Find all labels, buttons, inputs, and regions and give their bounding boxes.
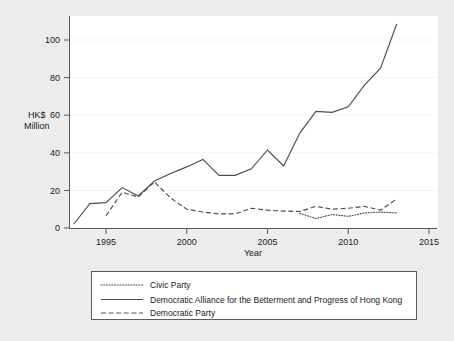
x-tick-label: 2005 [257,237,277,247]
y-axis-title-line2: Million [24,121,50,131]
legend-label-1: Democratic Alliance for the Betterment a… [150,295,403,305]
x-tick-label: 1995 [96,237,116,247]
y-axis-title-line1: HK$ [28,110,46,120]
y-tick-label: 100 [45,35,60,45]
line-chart: 020406080100 19952000200520102015 HK$ Mi… [0,0,454,341]
x-tick-label: 2000 [177,237,197,247]
x-axis-title: Year [244,248,262,258]
legend-label-0: Civic Party [150,280,191,290]
y-tick-label: 60 [50,110,60,120]
chart-figure: 020406080100 19952000200520102015 HK$ Mi… [0,0,454,341]
x-tick-label: 2015 [419,237,439,247]
x-tick-label: 2010 [338,237,358,247]
y-tick-label: 0 [55,223,60,233]
y-tick-label: 40 [50,148,60,158]
plot-area-background [69,16,438,228]
legend-label-2: Democratic Party [150,308,216,318]
y-tick-label: 20 [50,186,60,196]
y-tick-label: 80 [50,73,60,83]
